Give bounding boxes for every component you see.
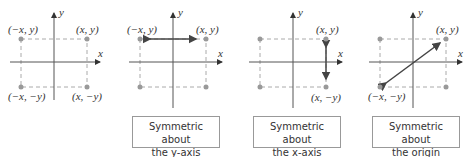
point-label: (x, y) xyxy=(196,23,219,36)
point-label: (x, y) xyxy=(436,23,459,36)
y-axis-label: y xyxy=(417,6,423,18)
caption-x-axis: Symmetric about the x-axis xyxy=(253,116,341,148)
caption-line: Symmetric about xyxy=(373,120,459,146)
point-label: (x, −y) xyxy=(311,91,341,104)
x-axis-label: x xyxy=(217,47,223,59)
caption-y-axis: Symmetric about the y-axis xyxy=(132,116,220,148)
x-axis-label: x xyxy=(337,47,343,59)
point-label: (−x, y) xyxy=(8,23,38,36)
caption-line: the y-axis xyxy=(133,146,219,157)
caption-origin: Symmetric about the origin xyxy=(372,116,460,148)
point-label: (−x, −y) xyxy=(8,90,46,103)
caption-line: Symmetric about xyxy=(133,120,219,146)
x-axis-label: x xyxy=(457,47,463,59)
y-axis-label: y xyxy=(297,6,303,18)
point-label: (x, −y) xyxy=(72,90,102,103)
point-label: (x, y) xyxy=(316,23,339,36)
caption-line: Symmetric about xyxy=(254,120,340,146)
y-axis-label: y xyxy=(177,6,183,18)
caption-line: the x-axis xyxy=(254,146,340,157)
y-axis-label: y xyxy=(58,6,64,18)
x-axis-label: x xyxy=(97,47,103,59)
point-label: (x, y) xyxy=(76,23,99,36)
point-label: (−x, −y) xyxy=(368,90,406,103)
point-label: (−x, y) xyxy=(127,23,157,36)
caption-line: the origin xyxy=(373,146,459,157)
